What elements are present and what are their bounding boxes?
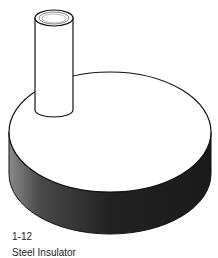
post-top: [35, 10, 73, 26]
figure-title: Steel Insulator: [12, 247, 76, 258]
post-body: [35, 18, 73, 117]
figure-number: 1-12: [12, 231, 32, 242]
